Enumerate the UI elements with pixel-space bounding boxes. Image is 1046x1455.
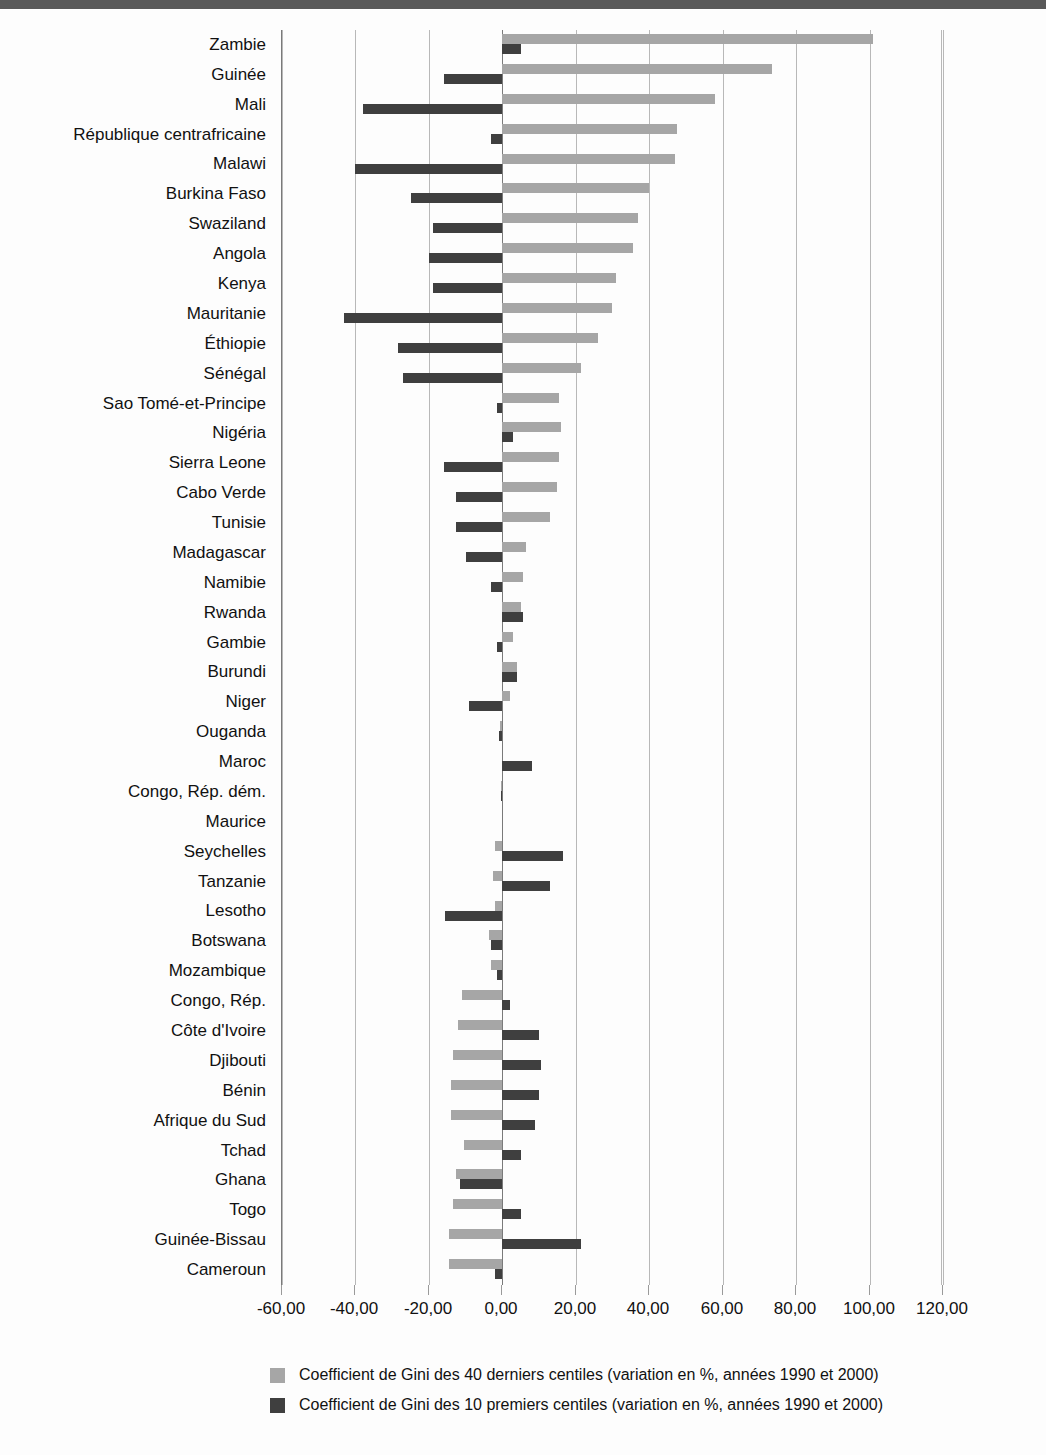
- bar-bottom10-17: [466, 552, 503, 562]
- bar-bottom10-38: [460, 1179, 502, 1189]
- x-tick-mark: [428, 1285, 429, 1295]
- bar-bottom10-21: [502, 672, 517, 682]
- bar-bottom10-31: [497, 970, 503, 980]
- legend-label-bottom-series: Coefficient de Gini des 10 premiers cent…: [299, 1396, 883, 1414]
- bar-top40-27: [495, 841, 502, 851]
- plot-area: [281, 30, 942, 1285]
- category-label-20: Gambie: [206, 634, 266, 651]
- bar-top40-6: [502, 213, 638, 223]
- x-tick-mark: [942, 1285, 943, 1295]
- chart-legend: Coefficient de Gini des 40 derniers cent…: [0, 1360, 1046, 1420]
- bar-bottom10-12: [497, 403, 503, 413]
- bar-bottom10-34: [502, 1060, 541, 1070]
- bar-top40-25: [501, 781, 502, 791]
- bar-bottom10-25: [501, 791, 502, 801]
- legend-item-top-series: Coefficient de Gini des 40 derniers cent…: [0, 1360, 1046, 1390]
- legend-swatch-icon-light-gray: [270, 1368, 285, 1383]
- category-label-28: Tanzanie: [198, 873, 266, 890]
- bar-top40-2: [502, 94, 715, 104]
- category-label-0: Zambie: [209, 36, 266, 53]
- gridline--20: [429, 30, 430, 1285]
- bar-bottom10-40: [502, 1239, 581, 1249]
- category-label-17: Madagascar: [172, 544, 266, 561]
- category-label-37: Tchad: [221, 1142, 266, 1159]
- x-tick-mark: [722, 1285, 723, 1295]
- bar-top40-28: [493, 871, 502, 881]
- bar-top40-36: [451, 1110, 502, 1120]
- category-label-41: Cameroun: [187, 1261, 266, 1278]
- category-label-21: Burundi: [207, 663, 266, 680]
- bar-bottom10-30: [491, 940, 502, 950]
- bar-top40-30: [489, 930, 502, 940]
- category-label-24: Maroc: [219, 753, 266, 770]
- bar-bottom10-36: [502, 1120, 535, 1130]
- category-label-8: Kenya: [218, 275, 266, 292]
- bar-top40-3: [502, 124, 676, 134]
- bar-bottom10-9: [344, 313, 502, 323]
- bar-top40-7: [502, 243, 632, 253]
- bar-bottom10-1: [444, 74, 503, 84]
- bar-bottom10-28: [502, 881, 550, 891]
- category-label-7: Angola: [213, 245, 266, 262]
- category-label-14: Sierra Leone: [169, 454, 266, 471]
- category-label-13: Nigéria: [212, 424, 266, 441]
- gridline-80: [796, 30, 797, 1285]
- bar-bottom10-11: [403, 373, 502, 383]
- legend-item-bottom-series: Coefficient de Gini des 10 premiers cent…: [0, 1390, 1046, 1420]
- bar-bottom10-8: [433, 283, 503, 293]
- category-label-27: Seychelles: [184, 843, 266, 860]
- bar-bottom10-37: [502, 1150, 520, 1160]
- bar-top40-17: [502, 542, 526, 552]
- x-tick-mark: [869, 1285, 870, 1295]
- bar-bottom10-14: [444, 462, 503, 472]
- bar-bottom10-39: [502, 1209, 520, 1219]
- bar-top40-4: [502, 154, 675, 164]
- category-label-10: Éthiopie: [205, 335, 266, 352]
- bar-top40-20: [502, 632, 513, 642]
- legend-label-top-series: Coefficient de Gini des 40 derniers cent…: [299, 1366, 879, 1384]
- bar-top40-40: [449, 1229, 502, 1239]
- bar-top40-0: [502, 34, 873, 44]
- x-tick-label: 80,00: [774, 1299, 817, 1319]
- bar-top40-10: [502, 333, 597, 343]
- x-tick-label: 20,00: [554, 1299, 597, 1319]
- category-label-4: Malawi: [213, 155, 266, 172]
- bar-bottom10-23: [499, 731, 503, 741]
- bar-bottom10-15: [456, 492, 502, 502]
- gridline-60: [723, 30, 724, 1285]
- category-label-9: Mauritanie: [187, 305, 266, 322]
- x-tick-mark: [354, 1285, 355, 1295]
- category-label-40: Guinée-Bissau: [154, 1231, 266, 1248]
- top-decorative-band: [0, 0, 1046, 9]
- bar-top40-38: [456, 1169, 502, 1179]
- bar-top40-18: [502, 572, 522, 582]
- bar-bottom10-27: [502, 851, 563, 861]
- bar-top40-21: [502, 662, 517, 672]
- bar-top40-5: [502, 183, 649, 193]
- bar-top40-1: [502, 64, 772, 74]
- category-label-32: Congo, Rép.: [171, 992, 266, 1009]
- x-tick-label: 120,00: [916, 1299, 968, 1319]
- category-label-26: Maurice: [206, 813, 266, 830]
- category-label-1: Guinée: [211, 66, 266, 83]
- x-tick-mark: [648, 1285, 649, 1295]
- bar-bottom10-24: [502, 761, 531, 771]
- category-axis: ZambieGuinéeMaliRépublique centrafricain…: [0, 30, 276, 1285]
- bar-bottom10-20: [497, 642, 503, 652]
- bar-top40-13: [502, 422, 561, 432]
- category-label-6: Swaziland: [189, 215, 267, 232]
- bar-top40-39: [453, 1199, 503, 1209]
- bar-top40-11: [502, 363, 581, 373]
- x-tick-label: 60,00: [701, 1299, 744, 1319]
- bar-bottom10-2: [363, 104, 503, 114]
- gridline-100: [870, 30, 871, 1285]
- category-label-16: Tunisie: [212, 514, 266, 531]
- x-tick-mark: [281, 1285, 282, 1295]
- category-label-35: Bénin: [223, 1082, 266, 1099]
- x-tick-label: 100,00: [843, 1299, 895, 1319]
- bar-bottom10-16: [456, 522, 502, 532]
- category-label-25: Congo, Rép. dém.: [128, 783, 266, 800]
- bar-top40-14: [502, 452, 559, 462]
- x-tick-label: -40,00: [330, 1299, 378, 1319]
- bar-top40-16: [502, 512, 550, 522]
